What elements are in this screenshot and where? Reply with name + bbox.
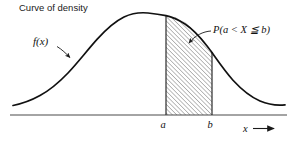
density-function-label: f(x) — [33, 35, 49, 48]
tick-label-b: b — [207, 119, 212, 130]
probability-label: P(a < X ≦ b) — [212, 24, 270, 36]
tick-label-a: a — [160, 119, 165, 130]
x-axis-label: x — [242, 123, 248, 134]
figure-caption: Curve of density — [19, 2, 88, 13]
density-label-leader-arrow — [57, 47, 70, 58]
density-curve-figure: Curve of density f(x) P(a < X ≦ b) a b x — [0, 0, 294, 143]
